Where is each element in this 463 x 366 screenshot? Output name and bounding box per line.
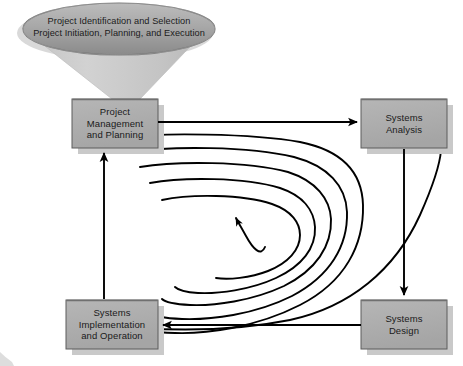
- box-systems-design[interactable]: [361, 300, 447, 349]
- box-systems-analysis[interactable]: [361, 99, 447, 148]
- diagram-canvas: Project Identification and Selection Pro…: [0, 0, 463, 366]
- page-edge-artifact: [0, 352, 14, 366]
- box-systems-implementation[interactable]: [66, 300, 158, 349]
- box-project-management[interactable]: [72, 99, 158, 148]
- funnel-ellipse: [23, 3, 215, 55]
- diagram-graphics: [0, 0, 463, 366]
